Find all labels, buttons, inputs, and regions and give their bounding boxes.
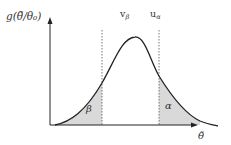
y-axis-arrow-icon <box>48 17 53 24</box>
v-beta-label: vβ <box>119 8 129 21</box>
beta-shaded-region <box>55 83 102 125</box>
x-axis-label: θ̃ <box>198 130 204 141</box>
alpha-region-label: α <box>165 100 172 111</box>
density-diagram: g(θ̃/θ₀) vβ uα β α θ̃ <box>0 0 231 145</box>
y-axis-label: g(θ̃/θ₀) <box>6 10 41 22</box>
density-curve <box>55 37 218 126</box>
beta-region-label: β <box>85 103 92 114</box>
u-alpha-label: uα <box>150 8 161 21</box>
